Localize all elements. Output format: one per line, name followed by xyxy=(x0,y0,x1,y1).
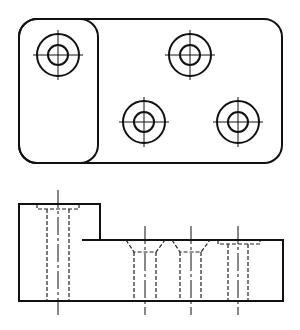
hole-front-1 xyxy=(37,190,79,315)
hole-top-2 xyxy=(165,30,215,80)
technical-drawing xyxy=(0,0,300,330)
top-view xyxy=(19,19,282,163)
front-view xyxy=(19,190,283,315)
hole-top-1 xyxy=(33,30,83,80)
hole-top-3 xyxy=(119,97,169,147)
hole-top-4 xyxy=(213,97,263,147)
